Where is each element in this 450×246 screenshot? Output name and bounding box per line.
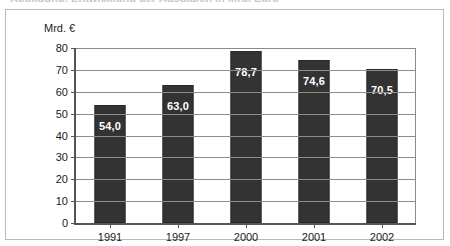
gridline	[76, 179, 416, 180]
bar[interactable]: 78,7	[231, 51, 262, 223]
x-axis-tick-mark	[178, 223, 179, 228]
chart-screenshot: Abbildung: Entwicklung der Ausgaben in M…	[0, 0, 450, 246]
y-axis-tick-mark	[71, 201, 76, 202]
y-axis-tick-mark	[71, 136, 76, 137]
bar[interactable]: 54,0	[95, 105, 126, 223]
x-axis-category-label: 2000	[234, 231, 258, 243]
x-axis-category-label: 1997	[166, 231, 190, 243]
x-axis-tick-mark	[382, 223, 383, 228]
gridline	[76, 157, 416, 158]
gridline	[76, 48, 416, 49]
gridline	[76, 70, 416, 71]
x-axis-category-label: 2002	[370, 231, 394, 243]
bar[interactable]: 63,0	[163, 85, 194, 223]
y-axis-tick-label: 80	[56, 42, 68, 54]
x-axis-tick-mark	[110, 223, 111, 228]
y-axis-tick-mark	[71, 114, 76, 115]
bar-value-label: 63,0	[167, 100, 189, 112]
y-axis-tick-mark	[71, 179, 76, 180]
x-axis-tick-mark	[246, 223, 247, 228]
x-axis-category-label: 1991	[98, 231, 122, 243]
bar-value-label: 74,6	[303, 75, 325, 87]
cutoff-headline-text: Abbildung: Entwicklung der Ausgaben in M…	[10, 0, 350, 2]
x-axis-tick-mark	[314, 223, 315, 228]
chart-frame: Mrd. € 54,063,078,774,670,5 010203040506…	[5, 9, 444, 240]
y-axis-tick-label: 30	[56, 151, 68, 163]
y-axis-tick-label: 40	[56, 130, 68, 142]
y-axis-tick-label: 0	[62, 217, 68, 229]
y-axis-tick-label: 10	[56, 195, 68, 207]
y-axis-tick-mark	[71, 70, 76, 71]
y-axis-tick-mark	[71, 157, 76, 158]
x-axis-category-label: 2001	[302, 231, 326, 243]
bar[interactable]: 74,6	[299, 60, 330, 223]
plot-area: 54,063,078,774,670,5 0102030405060708019…	[74, 48, 416, 225]
y-axis-tick-mark	[71, 48, 76, 49]
y-axis-tick-label: 20	[56, 173, 68, 185]
y-axis-tick-mark	[71, 223, 76, 224]
gridline	[76, 114, 416, 115]
y-axis-tick-mark	[71, 92, 76, 93]
gridline	[76, 201, 416, 202]
gridline	[76, 92, 416, 93]
gridline	[76, 136, 416, 137]
bar-value-label: 70,5	[371, 84, 393, 96]
bar-value-label: 54,0	[99, 120, 121, 132]
bar-value-label: 78,7	[235, 66, 257, 78]
y-axis-tick-label: 70	[56, 64, 68, 76]
y-axis-tick-label: 50	[56, 108, 68, 120]
y-axis-tick-label: 60	[56, 86, 68, 98]
y-axis-unit-label: Mrd. €	[44, 22, 75, 34]
